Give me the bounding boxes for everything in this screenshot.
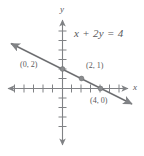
line-segment [12,44,132,104]
equation-label: x + 2y = 4 [74,28,124,39]
point-label-2-1: (2, 1) [86,62,103,70]
point-label-4-0: (4, 0) [90,97,107,105]
x-axis [8,85,128,93]
coordinate-plane-figure: y x x + 2y = 4 (0, 2) (2, 1) (4, 0) [0,0,144,156]
graph-canvas [0,0,144,156]
plotted-line [11,44,132,105]
point-marker-2-1 [79,76,84,81]
point-marker-0-2 [60,67,65,72]
y-axis-label: y [60,5,64,14]
x-axis-label: x [133,83,137,92]
y-axis [59,20,67,145]
line-upper-left-arrow [11,44,17,47]
point-label-0-2: (0, 2) [20,61,37,69]
point-marker-4-0 [98,86,103,91]
